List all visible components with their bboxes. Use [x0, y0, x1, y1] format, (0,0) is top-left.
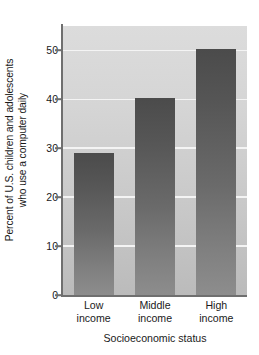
- x-axis-category-label: Lowincome: [63, 299, 124, 333]
- x-axis-category-label-line: income: [124, 312, 185, 325]
- y-axis-tick-labels: 01020304050: [32, 0, 58, 355]
- x-axis-category-label-line: income: [186, 312, 247, 325]
- y-axis-title-line-1: Percent of U.S. children and adolescents: [4, 59, 17, 242]
- x-axis-category-label-line: High: [186, 299, 247, 312]
- bar: [135, 98, 175, 295]
- x-axis-line: [61, 295, 247, 297]
- y-axis-tick-mark: [55, 147, 62, 149]
- x-axis-category-labels: LowincomeMiddleincomeHighincome: [63, 299, 247, 333]
- y-axis-title: Percent of U.S. children and adolescents…: [0, 0, 34, 300]
- x-axis-title: Socioeconomic status: [63, 332, 247, 344]
- bar-chart-figure: Percent of U.S. children and adolescents…: [0, 0, 259, 355]
- plot-area: [63, 26, 247, 295]
- y-axis-tick-mark: [55, 196, 62, 198]
- x-axis-category-label: Highincome: [186, 299, 247, 333]
- y-axis-line: [61, 24, 63, 297]
- bar: [74, 153, 114, 295]
- y-axis-tick-mark: [55, 245, 62, 247]
- x-axis-category-label-line: income: [63, 312, 124, 325]
- y-axis-tick-mark: [55, 294, 62, 296]
- bar: [196, 49, 236, 295]
- y-axis-title-line-2: who use a computer daily: [17, 93, 30, 207]
- y-axis-tick-mark: [55, 50, 62, 52]
- y-axis-tick-mark: [55, 99, 62, 101]
- x-axis-category-label: Middleincome: [124, 299, 185, 333]
- x-axis-category-label-line: Middle: [124, 299, 185, 312]
- x-axis-category-label-line: Low: [63, 299, 124, 312]
